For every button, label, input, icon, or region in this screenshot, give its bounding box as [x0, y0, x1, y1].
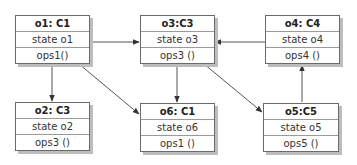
object-title: o6: C1 — [141, 104, 214, 120]
object-state: state o4 — [266, 32, 339, 48]
object-operations: ops1 () — [141, 136, 214, 152]
object-title: o3:C3 — [141, 16, 214, 32]
object-title: o5:C5 — [264, 104, 338, 120]
object-o6[interactable]: o6: C1 state o6 ops1 () — [140, 103, 215, 152]
object-title: o4: C4 — [266, 16, 339, 32]
object-o3[interactable]: o3:C3 state o3 ops3 () — [140, 15, 215, 64]
object-state: state o2 — [16, 119, 89, 135]
object-operations: ops5 () — [264, 136, 338, 152]
object-operations: ops4 () — [266, 48, 339, 64]
object-o1[interactable]: o1: C1 state o1 ops1() — [15, 15, 90, 64]
object-operations: ops1() — [16, 48, 89, 64]
object-o2[interactable]: o2: C3 state o2 ops3 () — [15, 102, 90, 151]
object-operations: ops3 () — [141, 48, 214, 64]
object-state: state o3 — [141, 32, 214, 48]
object-o5[interactable]: o5:C5 state o5 ops5 () — [263, 103, 339, 152]
object-state: state o1 — [16, 32, 89, 48]
object-o4[interactable]: o4: C4 state o4 ops4 () — [265, 15, 340, 64]
object-title: o1: C1 — [16, 16, 89, 32]
object-state: state o6 — [141, 120, 214, 136]
object-operations: ops3 () — [16, 135, 89, 151]
object-title: o2: C3 — [16, 103, 89, 119]
object-state: state o5 — [264, 120, 338, 136]
